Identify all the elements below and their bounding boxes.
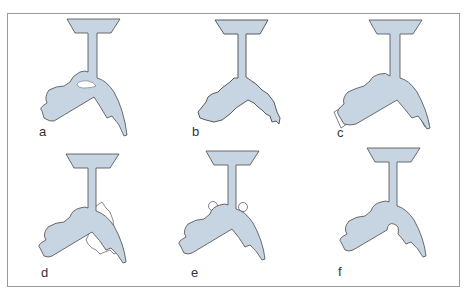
- panel-label: e: [191, 266, 198, 279]
- panel-d: d: [28, 150, 178, 287]
- panel-b: b: [178, 14, 328, 151]
- panel-a: a: [28, 14, 178, 151]
- panel-label: f: [338, 265, 342, 278]
- casting-shape-icon: [178, 150, 328, 287]
- panel-c: c: [324, 14, 468, 151]
- panel-e: e: [178, 150, 328, 287]
- casting-shape-icon: [28, 150, 178, 287]
- casting-shape-icon: [178, 14, 328, 151]
- casting-shape-icon: [28, 14, 178, 151]
- casting-shape-icon: [324, 150, 468, 287]
- panel-label: a: [39, 125, 46, 138]
- panel-label: c: [337, 126, 344, 139]
- panel-f: f: [324, 150, 468, 287]
- panel-label: d: [41, 266, 48, 279]
- panel-label: b: [192, 125, 199, 138]
- casting-shape-icon: [324, 14, 468, 151]
